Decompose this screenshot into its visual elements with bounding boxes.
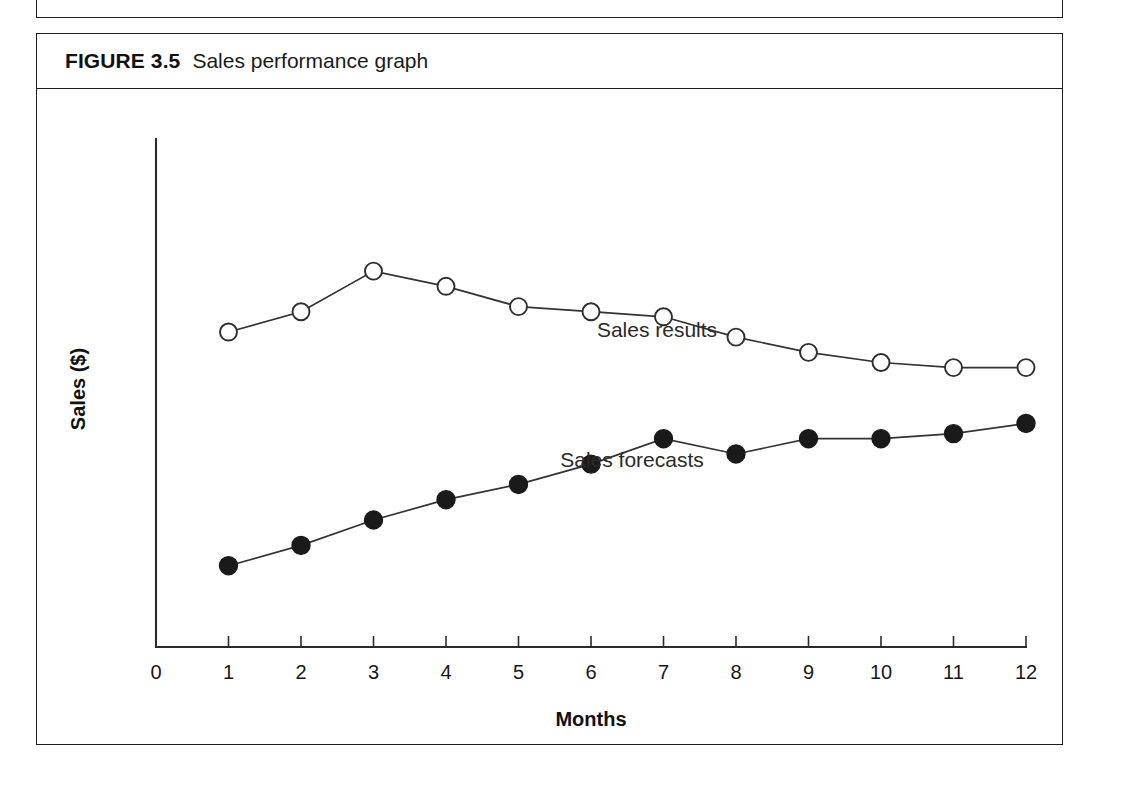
- data-point-marker: [510, 298, 527, 315]
- data-point-marker: [800, 344, 817, 361]
- data-point-marker: [365, 263, 382, 280]
- chart-axes: [156, 139, 1026, 647]
- data-point-marker: [945, 425, 963, 443]
- series-annotation-sales-results: Sales results: [597, 318, 717, 341]
- x-axis-tick-label: 10: [870, 661, 892, 683]
- x-axis-title: Months: [555, 708, 626, 730]
- chart-series-group: [220, 263, 1036, 575]
- data-point-marker: [800, 430, 818, 448]
- data-point-marker: [437, 491, 455, 509]
- x-axis-tick-label: 11: [943, 661, 964, 683]
- data-point-marker: [1017, 414, 1035, 432]
- line-chart: 0123456789101112 Sales results Sales for…: [37, 89, 1061, 743]
- data-point-marker: [220, 324, 237, 341]
- figure-number-label: FIGURE 3.5: [65, 49, 180, 73]
- data-point-marker: [945, 359, 962, 376]
- preceding-figure-box-partial: [36, 0, 1063, 18]
- x-axis-tick-label: 8: [730, 661, 741, 683]
- data-point-marker: [438, 278, 455, 295]
- x-axis-tick-label: 1: [223, 661, 234, 683]
- data-point-marker: [728, 329, 745, 346]
- y-axis-title: Sales ($): [67, 348, 89, 430]
- x-axis-tick-label: 12: [1015, 661, 1037, 683]
- x-axis-tick-label: 7: [658, 661, 669, 683]
- x-axis-tick-label: 5: [513, 661, 524, 683]
- data-point-marker: [655, 430, 673, 448]
- data-point-marker: [873, 354, 890, 371]
- series-annotation-sales-forecasts: Sales forecasts: [560, 448, 704, 471]
- figure-title-label: Sales performance graph: [192, 49, 428, 73]
- data-point-marker: [293, 303, 310, 320]
- x-axis-ticks: [229, 636, 1027, 647]
- x-axis-tick-label: 4: [440, 661, 451, 683]
- x-axis-tick-label: 6: [585, 661, 596, 683]
- x-axis-tick-labels: 0123456789101112: [150, 661, 1037, 683]
- x-axis-tick-label: 3: [368, 661, 379, 683]
- figure-container: FIGURE 3.5 Sales performance graph 01234…: [36, 33, 1063, 745]
- chart-plot-area: 0123456789101112 Sales results Sales for…: [37, 89, 1062, 744]
- x-axis-tick-label: 2: [295, 661, 306, 683]
- data-point-marker: [510, 475, 528, 493]
- data-point-marker: [365, 511, 383, 529]
- x-axis-tick-label: 9: [803, 661, 814, 683]
- data-point-marker: [727, 445, 745, 463]
- x-axis-tick-label: 0: [150, 661, 161, 683]
- data-point-marker: [292, 536, 310, 554]
- data-point-marker: [1018, 359, 1035, 376]
- data-point-marker: [220, 557, 238, 575]
- figure-caption-bar: FIGURE 3.5 Sales performance graph: [37, 34, 1062, 89]
- data-point-marker: [872, 430, 890, 448]
- series-line-1: [229, 423, 1027, 565]
